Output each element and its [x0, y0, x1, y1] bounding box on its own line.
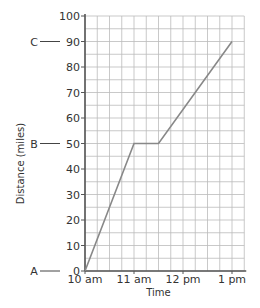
y-tick-label: 90: [66, 36, 80, 49]
y-tick-label: 50: [66, 138, 80, 151]
y-tick-label: 100: [59, 10, 80, 23]
y-tick-label: 70: [66, 87, 80, 100]
y-tick-label: 20: [66, 214, 80, 227]
y-tick-label: 60: [66, 112, 80, 125]
point-label-b: B: [30, 138, 38, 151]
x-tick-label: 11 am: [117, 273, 152, 286]
x-axis-title: Time: [145, 287, 170, 298]
y-tick-label: 40: [66, 163, 80, 176]
y-tick-labels: 0102030405060708090100: [59, 10, 85, 278]
point-label-c: C: [30, 36, 38, 49]
x-tick-label: 10 am: [68, 273, 103, 286]
y-tick-label: 30: [66, 189, 80, 202]
point-label-a: A: [30, 265, 38, 278]
point-annotations: ABC: [30, 36, 60, 279]
x-tick-labels: 10 am11 am12 pm1 pm: [68, 271, 247, 286]
y-tick-label: 10: [66, 240, 80, 253]
distance-time-chart: 0102030405060708090100 10 am11 am12 pm1 …: [0, 0, 260, 308]
y-axis-title: Distance (miles): [15, 123, 26, 204]
x-tick-label: 12 pm: [165, 273, 200, 286]
x-tick-label: 1 pm: [218, 273, 246, 286]
grid: [85, 16, 244, 271]
y-tick-label: 80: [66, 61, 80, 74]
